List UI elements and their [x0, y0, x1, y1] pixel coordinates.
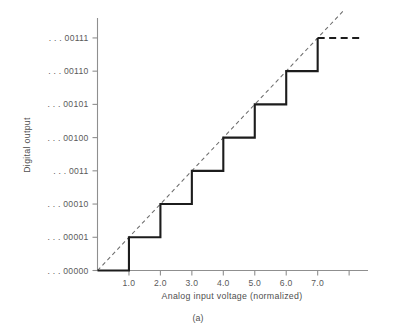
x-axis-title: Analog input voltage (normalized)	[162, 291, 303, 301]
figure-caption: (a)	[193, 313, 204, 323]
y-tick-label: . . . 00001	[48, 232, 89, 242]
y-tick-label: . . . 00110	[48, 66, 88, 76]
x-tick-label: 7.0	[311, 278, 324, 288]
y-tick-label: . . . 00101	[48, 99, 89, 109]
x-tick-label: 3.0	[186, 278, 199, 288]
y-tick-label: . . . 0011	[53, 166, 88, 176]
x-tick-label: 2.0	[154, 278, 167, 288]
x-tick-label: 5.0	[248, 278, 261, 288]
y-axis-title: Digital output	[22, 117, 32, 173]
adc-transfer-chart: . . . 00000. . . 00001. . . 00010. . . 0…	[0, 0, 397, 334]
ideal-transfer-line	[98, 10, 345, 271]
x-axis-tick-labels: 1.02.03.04.05.06.07.0	[123, 278, 324, 288]
x-axis-ticks	[129, 271, 349, 276]
figure-container: . . . 00000. . . 00001. . . 00010. . . 0…	[0, 0, 397, 334]
x-tick-label: 4.0	[217, 278, 230, 288]
y-tick-label: . . . 00111	[49, 33, 89, 43]
y-axis-ticks	[93, 38, 98, 271]
x-tick-label: 1.0	[123, 278, 136, 288]
axes-group	[98, 18, 369, 271]
y-tick-label: . . . 00100	[48, 133, 89, 143]
y-axis-tick-labels: . . . 00000. . . 00001. . . 00010. . . 0…	[48, 33, 89, 276]
y-tick-label: . . . 00000	[48, 266, 89, 276]
x-tick-label: 6.0	[280, 278, 293, 288]
y-tick-label: . . . 00010	[48, 199, 89, 209]
